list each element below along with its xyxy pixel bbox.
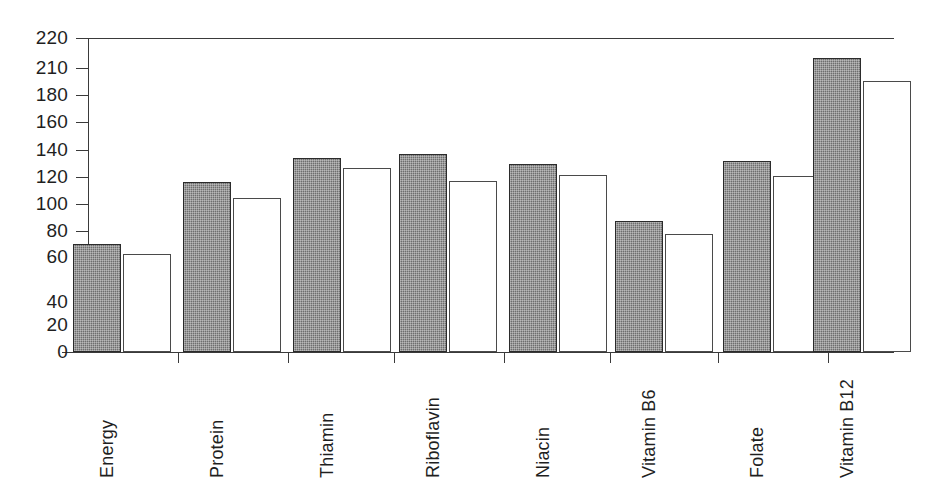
x-axis-label-text: Thiamin: [318, 413, 336, 478]
bar-light: [665, 234, 713, 352]
category-separator-tick: [718, 352, 719, 363]
bar-light: [343, 168, 391, 352]
x-axis-label-vitamin-b12: Vitamin B12: [856, 368, 857, 478]
x-axis-label-protein: Protein: [226, 368, 227, 478]
category-separator-tick: [288, 352, 289, 363]
x-axis-label-niacin: Niacin: [552, 368, 553, 478]
bar-dark: [73, 244, 121, 352]
x-axis-label-folate: Folate: [766, 368, 767, 478]
bar-light: [863, 81, 911, 352]
bar-dark: [399, 154, 447, 352]
bar-chart: 220210180160140120100806040200 EnergyPro…: [0, 0, 928, 482]
category-separator-tick: [504, 352, 505, 363]
bar-light: [233, 198, 281, 352]
x-axis-label-thiamin: Thiamin: [336, 368, 337, 478]
bar-dark: [293, 158, 341, 352]
x-axis-label-text: Folate: [748, 427, 766, 478]
x-axis-label-riboflavin: Riboflavin: [442, 368, 443, 478]
bar-light: [449, 181, 497, 352]
category-separator-tick: [394, 352, 395, 363]
bars-layer: [0, 0, 928, 482]
bar-dark: [509, 164, 557, 352]
category-separator-tick: [828, 352, 829, 363]
bar-dark: [723, 161, 771, 352]
bar-light: [559, 175, 607, 352]
x-axis-label-vitamin-b6: Vitamin B6: [658, 368, 659, 478]
x-axis-label-text: Niacin: [534, 427, 552, 478]
x-axis-label-text: Vitamin B6: [640, 389, 658, 478]
x-axis-label-text: Energy: [98, 420, 116, 478]
category-separator-tick: [610, 352, 611, 363]
bar-light: [123, 254, 171, 352]
category-separator-tick: [178, 352, 179, 363]
x-axis-label-text: Riboflavin: [424, 397, 442, 478]
bar-dark: [183, 182, 231, 352]
bar-dark: [615, 221, 663, 352]
bar-dark: [813, 58, 861, 352]
x-axis-label-text: Vitamin B12: [838, 379, 856, 478]
x-axis-label-text: Protein: [208, 420, 226, 478]
x-axis-label-energy: Energy: [116, 368, 117, 478]
